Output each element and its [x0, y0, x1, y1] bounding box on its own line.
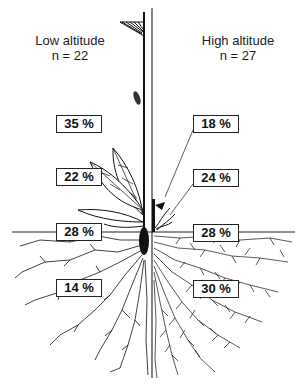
high-altitude-sample-size: n = 27	[183, 48, 293, 63]
low-altitude-leaves-percent: 22 %	[56, 168, 102, 186]
low-altitude-roots-percent: 14 %	[56, 279, 102, 297]
high-altitude-heading: High altitude n = 27	[183, 33, 293, 63]
low-altitude-sample-size: n = 22	[18, 48, 122, 63]
high-altitude-roots-icon	[154, 236, 292, 378]
low-altitude-upper-shoot-percent: 35 %	[56, 115, 102, 133]
high-altitude-stem-base-percent: 28 %	[193, 224, 239, 242]
low-altitude-heading: Low altitude n = 22	[18, 33, 122, 63]
low-altitude-roots-icon	[15, 230, 148, 375]
low-altitude-stem-base-percent: 28 %	[56, 223, 102, 241]
low-altitude-title: Low altitude	[35, 33, 104, 48]
high-altitude-roots-percent: 30 %	[193, 280, 239, 298]
high-altitude-shoot-icon	[152, 130, 193, 232]
high-altitude-leaves-percent: 24 %	[193, 169, 239, 187]
high-altitude-title: High altitude	[202, 33, 274, 48]
high-altitude-upper-shoot-percent: 18 %	[193, 115, 239, 133]
